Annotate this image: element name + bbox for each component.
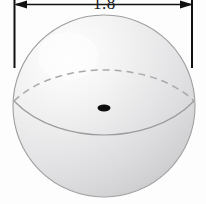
sphere-highlight [38,32,98,80]
sphere-center-point [98,105,111,112]
dimension-arrowhead-left-icon [14,1,27,9]
sphere-diagram-canvas [0,0,206,204]
sphere-figure: 1.8 [0,0,206,204]
dimension-label: 1.8 [93,0,116,12]
